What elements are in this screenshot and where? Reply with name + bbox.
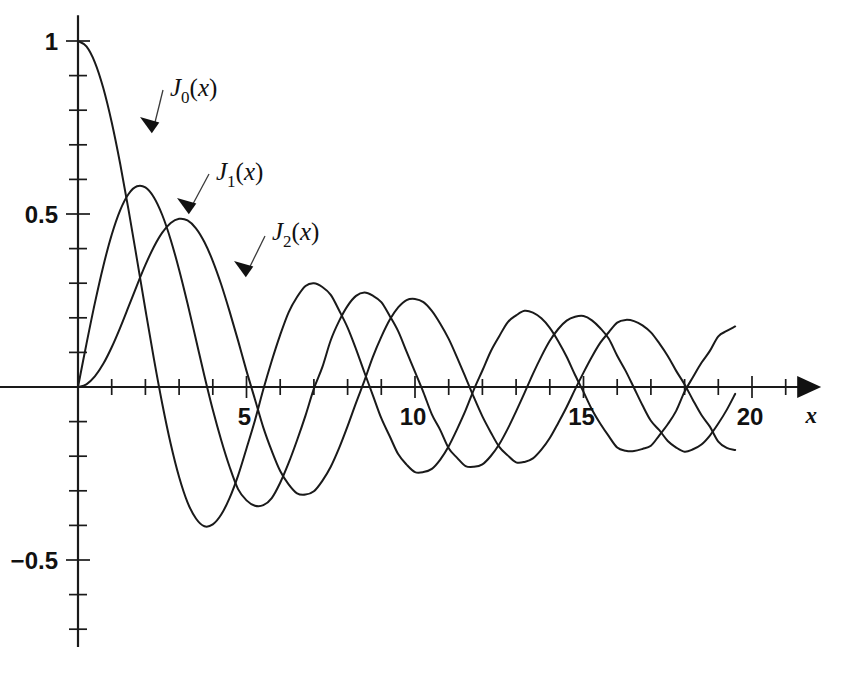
tick-labels-group: 10.5−0.55101520	[11, 28, 764, 574]
x-axis-tick-label: 15	[568, 403, 595, 430]
bessel-function-figure: 10.5−0.55101520 J0(x)J1(x)J2(x) x	[0, 0, 845, 675]
x-axis-label: x	[804, 403, 817, 428]
ticks-group	[66, 41, 786, 629]
y-axis-tick-label: 0.5	[25, 201, 58, 228]
axis-name-group: x	[804, 403, 817, 428]
series-label: J2(x)	[272, 218, 319, 251]
annotation-leader-line	[154, 90, 163, 127]
annotation-J0x: J0(x)	[140, 74, 217, 133]
annotation-arrowhead	[140, 117, 159, 133]
annotation-arrowhead	[234, 261, 253, 277]
series-label: J1(x)	[216, 158, 263, 191]
y-axis-tick-label: −0.5	[11, 547, 58, 574]
annotation-J2x: J2(x)	[234, 218, 319, 277]
bessel-plot-svg: 10.5−0.55101520 J0(x)J1(x)J2(x) x	[0, 0, 845, 675]
annotation-leader-line	[191, 174, 209, 208]
x-axis-tick-label: 5	[238, 403, 251, 430]
series-label: J0(x)	[170, 74, 217, 107]
x-axis-arrowhead	[797, 376, 821, 398]
annotation-arrowhead	[177, 198, 196, 214]
annotation-J1x: J1(x)	[177, 158, 263, 214]
annotations-group: J0(x)J1(x)J2(x)	[140, 74, 319, 277]
annotation-leader-line	[248, 236, 265, 271]
y-axis-tick-label: 1	[45, 28, 58, 55]
axes-group	[0, 15, 821, 647]
curve-J0x	[78, 41, 735, 527]
x-axis-tick-label: 20	[737, 403, 764, 430]
curves-group	[78, 41, 735, 527]
x-axis-tick-label: 10	[400, 403, 427, 430]
curve-J1x	[78, 186, 735, 507]
